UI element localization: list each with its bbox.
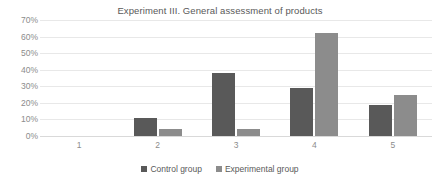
y-axis-tick-label: 60% — [8, 32, 38, 41]
bar[interactable] — [369, 105, 392, 136]
x-axis-tick-label: 4 — [294, 141, 334, 150]
bar[interactable] — [134, 118, 157, 136]
legend-swatch-icon — [216, 166, 222, 172]
x-axis-tick-label: 3 — [216, 141, 256, 150]
chart-title: Experiment III. General assessment of pr… — [0, 5, 440, 16]
x-axis-line — [40, 136, 432, 137]
y-axis-tick-label: 30% — [8, 82, 38, 91]
bar[interactable] — [290, 88, 313, 136]
plot-area: 0%10%20%30%40%50%60%70% 12345 — [0, 20, 440, 142]
y-axis-tick-label: 40% — [8, 65, 38, 74]
bars-layer — [40, 20, 432, 136]
legend-label: Experimental group — [225, 165, 299, 174]
bar[interactable] — [159, 129, 182, 136]
bar[interactable] — [394, 95, 417, 136]
legend-item[interactable]: Control group — [141, 165, 202, 174]
bar[interactable] — [315, 33, 338, 136]
y-axis-tick-label: 70% — [8, 16, 38, 25]
bar-chart: Experiment III. General assessment of pr… — [0, 0, 440, 188]
bar-group — [40, 20, 118, 136]
y-axis-tick-label: 10% — [8, 115, 38, 124]
bar[interactable] — [237, 129, 260, 136]
bar-group — [354, 20, 432, 136]
x-axis: 12345 — [40, 139, 432, 155]
legend-swatch-icon — [141, 166, 147, 172]
bar-group — [275, 20, 353, 136]
y-axis-tick-label: 20% — [8, 99, 38, 108]
bar-group — [118, 20, 196, 136]
bar[interactable] — [212, 73, 235, 136]
x-axis-tick-label: 1 — [59, 141, 99, 150]
legend-item[interactable]: Experimental group — [216, 165, 299, 174]
legend: Control groupExperimental group — [0, 165, 440, 174]
y-axis: 0%10%20%30%40%50%60%70% — [8, 20, 38, 136]
x-axis-tick-label: 5 — [373, 141, 413, 150]
x-axis-tick-label: 2 — [138, 141, 178, 150]
y-axis-tick-label: 0% — [8, 132, 38, 141]
legend-label: Control group — [150, 165, 202, 174]
bar-group — [197, 20, 275, 136]
y-axis-tick-label: 50% — [8, 49, 38, 58]
